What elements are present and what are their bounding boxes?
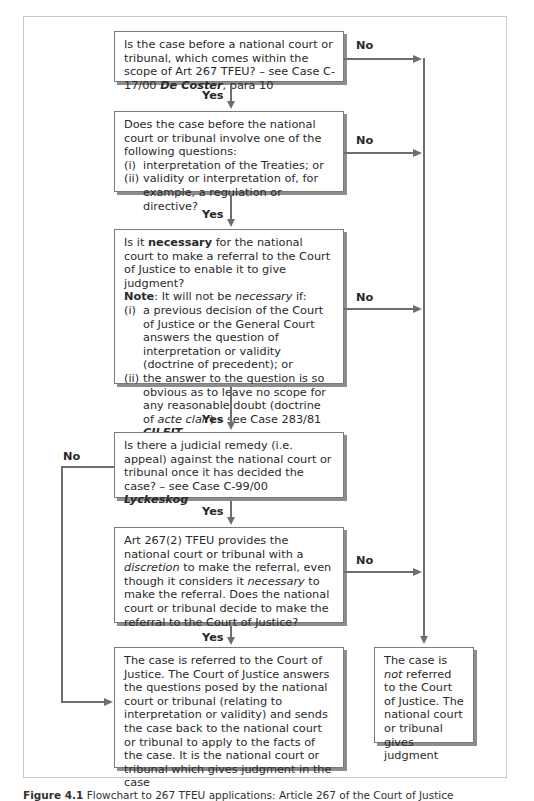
label-no-4: No	[63, 450, 80, 463]
question-judicial-remedy-text: Is there a judicial remedy (i.e. appeal)…	[124, 439, 335, 507]
connector-no-1	[344, 58, 416, 60]
question-box-questions: Does the case before the national court …	[114, 111, 344, 192]
label-no-1: No	[356, 39, 373, 52]
arrow-down-icon	[227, 101, 235, 109]
outcome-not-referred-text: The case is not referred to the Court of…	[384, 654, 465, 763]
connector-no-5	[344, 571, 416, 573]
arrow-right-icon	[413, 149, 422, 157]
label-no-5: No	[356, 554, 373, 567]
arrow-right-icon	[104, 698, 113, 706]
question-box-necessary: Is it necessary for the national court t…	[114, 229, 344, 384]
arrow-down-icon	[227, 637, 235, 645]
connector-no-4-v	[61, 466, 63, 702]
question-box-judicial-remedy: Is there a judicial remedy (i.e. appeal)…	[114, 432, 344, 498]
connector-yes-3	[230, 387, 232, 424]
label-yes-5: Yes	[202, 631, 224, 644]
question-box-scope: Is the case before a national court or t…	[114, 31, 344, 82]
label-yes-4: Yes	[202, 505, 224, 518]
label-no-2: No	[356, 134, 373, 147]
connector-no-4-h1	[61, 466, 114, 468]
arrow-right-icon	[413, 568, 422, 576]
label-yes-3: Yes	[202, 413, 224, 426]
question-questions-intro: Does the case before the national court …	[124, 118, 335, 159]
arrow-down-icon	[227, 422, 235, 430]
question-necessary-text: Is it necessary for the national court t…	[124, 236, 335, 290]
connector-no-4-h2	[61, 701, 106, 703]
connector-no-trunk	[423, 58, 425, 638]
outcome-box-not-referred: The case is not referred to the Court of…	[374, 647, 474, 743]
list-item: (i)interpretation of the Treaties; or	[124, 159, 335, 173]
label-yes-1: Yes	[202, 89, 224, 102]
connector-no-3	[344, 308, 416, 310]
connector-yes-2	[230, 195, 232, 221]
note-text: Note: It will not be necessary if:	[124, 290, 335, 304]
figure-caption: Figure 4.1 Flowchart to 267 TFEU applica…	[23, 789, 453, 801]
outcome-referred-text: The case is referred to the Court of Jus…	[124, 654, 335, 790]
label-no-3: No	[356, 291, 373, 304]
arrow-right-icon	[413, 305, 422, 313]
label-yes-2: Yes	[202, 208, 224, 221]
list-item: (i)a previous decision of the Court of J…	[124, 304, 335, 372]
question-discretion-text: Art 267(2) TFEU provides the national co…	[124, 534, 335, 629]
arrow-down-icon	[420, 636, 428, 644]
arrow-down-icon	[227, 517, 235, 525]
outcome-box-referred: The case is referred to the Court of Jus…	[114, 647, 344, 768]
question-box-discretion: Art 267(2) TFEU provides the national co…	[114, 527, 344, 623]
connector-no-2	[344, 152, 416, 154]
arrow-down-icon	[227, 219, 235, 227]
arrow-right-icon	[413, 55, 422, 63]
